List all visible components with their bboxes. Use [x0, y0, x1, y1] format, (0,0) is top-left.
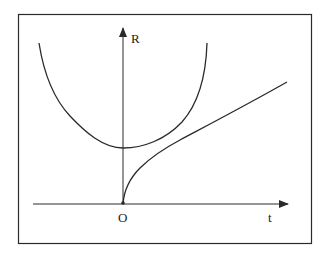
origin-label: O: [118, 210, 127, 225]
origin-point: [121, 201, 125, 205]
r-axis-label: R: [131, 31, 140, 46]
t-axis-label: t: [268, 210, 272, 225]
sqrt-growth-curve: [123, 82, 287, 204]
diagram-canvas: R O t: [0, 0, 326, 258]
